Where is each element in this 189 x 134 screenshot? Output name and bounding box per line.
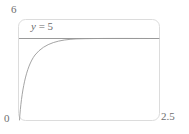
plot-frame [18, 19, 160, 121]
exponential-curve [20, 38, 160, 120]
plot-border [19, 20, 160, 121]
asymptote-annotation: y = 5 [31, 21, 53, 32]
figure-canvas: 6 0 2.5 y = 5 [0, 0, 189, 134]
origin-label: 0 [4, 113, 10, 124]
plot-graphics [18, 19, 160, 121]
x-axis-max-label: 2.5 [161, 111, 175, 122]
y-axis-max-label: 6 [11, 4, 17, 15]
asymptote-value: 5 [48, 20, 54, 32]
